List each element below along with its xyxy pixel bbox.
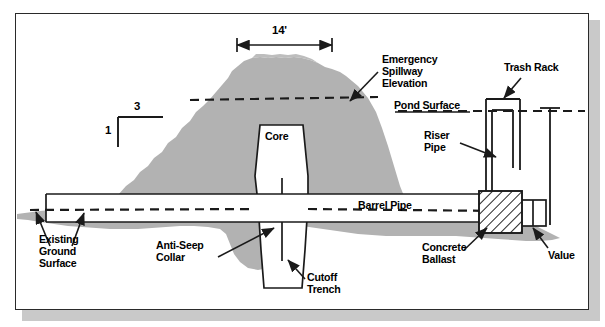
trash-rack-label: Trash Rack xyxy=(504,62,559,74)
riser-pipe-label: Riser Pipe xyxy=(424,130,450,154)
existing-ground-surface-label: Existing Ground Surface xyxy=(39,234,79,270)
cutoff-trench-label: Cutoff Trench xyxy=(307,272,341,296)
core-label: Core xyxy=(265,131,288,143)
diagram-stage: 14' 3 1 Emergency Spillway Elevation Pon… xyxy=(0,0,605,327)
crest-width-dimension xyxy=(237,38,332,52)
slope-indicator xyxy=(118,117,163,147)
concrete-ballast-block xyxy=(479,191,522,233)
crest-width-label: 14' xyxy=(272,24,287,37)
riser-pipe xyxy=(492,110,513,196)
leader-riser-pipe xyxy=(460,143,496,157)
leader-trash-rack xyxy=(504,78,521,98)
concrete-ballast-label: Concrete Ballast xyxy=(422,242,466,266)
emergency-spillway-label: Emergency Spillway Elevation xyxy=(382,54,437,90)
slope-run-label: 3 xyxy=(134,100,140,113)
pond-surface-label: Pond Surface xyxy=(394,100,460,112)
slope-rise-label: 1 xyxy=(105,124,111,137)
anti-seep-collar-label: Anti-Seep Collar xyxy=(156,240,204,264)
barrel-pipe xyxy=(46,194,508,222)
diagram-canvas xyxy=(0,0,605,327)
value-label: Value xyxy=(548,250,575,262)
barrel-pipe-label: Barrel Pipe xyxy=(358,200,412,212)
